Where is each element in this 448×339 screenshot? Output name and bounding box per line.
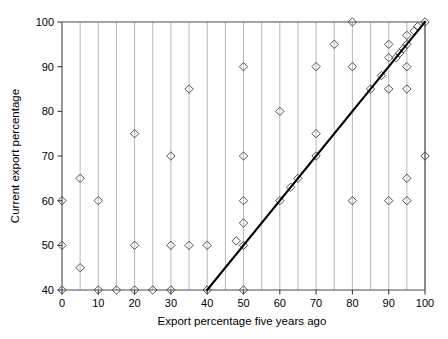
x-tick-label-80: 80 [346, 297, 358, 309]
y-tick-label-100: 100 [36, 16, 54, 28]
scatter-plot-figure: 0102030405060708090100 405060708090100 E… [0, 0, 448, 339]
x-tick-label-100: 100 [416, 297, 434, 309]
x-tick-label-60: 60 [274, 297, 286, 309]
plot-canvas: 0102030405060708090100 405060708090100 E… [0, 0, 448, 339]
y-tick-label-90: 90 [42, 61, 54, 73]
x-tick-label-40: 40 [201, 297, 213, 309]
x-tick-label-90: 90 [383, 297, 395, 309]
y-axis-title: Current export percentage [9, 89, 21, 223]
y-tick-label-80: 80 [42, 105, 54, 117]
x-tick-label-20: 20 [128, 297, 140, 309]
y-tick-label-50: 50 [42, 239, 54, 251]
y-tick-label-60: 60 [42, 195, 54, 207]
x-tick-label-30: 30 [165, 297, 177, 309]
x-tick-label-10: 10 [92, 297, 104, 309]
x-axis-title: Export percentage five years ago [158, 315, 327, 327]
x-tick-label-70: 70 [310, 297, 322, 309]
y-tick-label-40: 40 [42, 284, 54, 296]
figure-background [0, 0, 448, 339]
x-tick-label-0: 0 [59, 297, 65, 309]
x-tick-label-50: 50 [237, 297, 249, 309]
y-tick-label-70: 70 [42, 150, 54, 162]
